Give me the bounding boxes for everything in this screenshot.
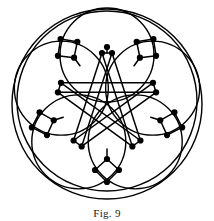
kite-node-side [55, 53, 61, 59]
kite-node-outer [104, 179, 110, 185]
star-tip-node [137, 137, 143, 143]
kite-node-outer [57, 36, 63, 42]
kite-node-inner [71, 55, 77, 61]
kite-node-inner [137, 55, 143, 61]
kite-node-side [164, 132, 170, 138]
kite-node-side [171, 109, 177, 115]
star-tip-node [55, 89, 61, 95]
kite-node-side [153, 53, 159, 59]
kite-node-side [74, 39, 80, 45]
kite-node-side [134, 39, 140, 45]
kite-node-side [36, 109, 42, 115]
star-tip-node [58, 80, 64, 86]
star-tip-node [99, 50, 105, 56]
kite-node-outer [29, 124, 35, 130]
figure-caption: Fig. 9 [0, 207, 214, 219]
geometric-figure [0, 0, 214, 221]
star-tip-node [129, 143, 135, 149]
kite-node-inner [51, 117, 57, 123]
kite-node-inner [157, 117, 163, 123]
star-tip-node [109, 50, 115, 56]
kite-node-side [92, 167, 98, 173]
kite-node-outer [179, 124, 185, 130]
figure-container: Fig. 9 [0, 0, 214, 221]
apex-node [104, 44, 110, 50]
kite-node-outer [150, 36, 156, 42]
star-tip-node [70, 137, 76, 143]
star-tip-node [150, 80, 156, 86]
star-tip-node [79, 143, 85, 149]
star-tip-node [153, 89, 159, 95]
kite-node-inner [104, 156, 110, 162]
kite-node-side [116, 167, 122, 173]
figure-background [0, 0, 214, 221]
kite-node-side [44, 132, 50, 138]
